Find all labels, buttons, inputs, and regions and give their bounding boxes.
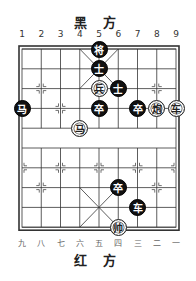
file-number: 七 xyxy=(54,237,68,248)
file-number: 五 xyxy=(92,237,106,248)
black-piece[interactable]: 卒 xyxy=(129,100,146,117)
black-piece[interactable]: 将 xyxy=(91,41,108,58)
bottom-file-numbers: 九 八 七 六 五 四 三 二 一 xyxy=(0,237,196,249)
file-number: 三 xyxy=(131,237,145,248)
file-number: 一 xyxy=(169,237,183,248)
black-piece[interactable]: 卒 xyxy=(91,100,108,117)
red-side-label: 红 方 xyxy=(0,250,196,269)
red-piece[interactable]: 兵 xyxy=(91,80,108,97)
file-number: 四 xyxy=(111,237,125,248)
file-number: 九 xyxy=(15,237,29,248)
black-piece[interactable]: 士 xyxy=(91,60,108,77)
file-number: 六 xyxy=(73,237,87,248)
file-number: 二 xyxy=(150,237,164,248)
black-piece[interactable]: 马 xyxy=(14,100,31,117)
red-piece[interactable]: 车 xyxy=(168,100,185,117)
black-piece[interactable]: 卒 xyxy=(110,179,127,196)
red-piece[interactable]: 帅 xyxy=(110,219,127,236)
black-piece[interactable]: 车 xyxy=(129,199,146,216)
black-piece[interactable]: 士 xyxy=(110,80,127,97)
file-number: 八 xyxy=(34,237,48,248)
red-piece[interactable]: 马 xyxy=(71,120,88,137)
